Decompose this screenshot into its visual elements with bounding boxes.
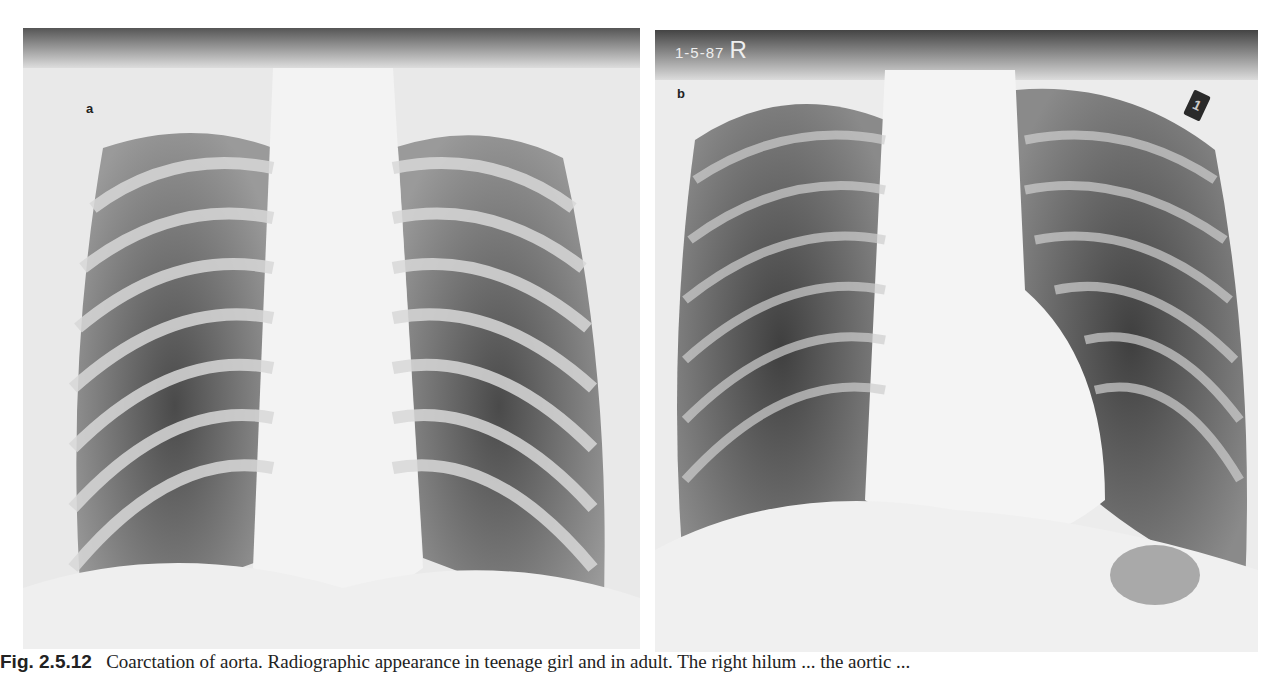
radiograph-panel-a: a: [23, 28, 640, 649]
chest-xray-a-image: [23, 28, 640, 649]
radiograph-panel-b: 1-5-87 R b 1: [655, 30, 1258, 652]
figure-caption: Fig. 2.5.12 Coarctation of aorta. Radiog…: [0, 651, 1273, 673]
marker-glyph: 1: [1190, 96, 1204, 114]
panel-label-b: b: [677, 86, 685, 101]
film-side-marker: R: [730, 36, 748, 63]
figure-number: Fig. 2.5.12: [0, 651, 92, 672]
film-date: 1-5-87: [675, 44, 724, 61]
chest-xray-b-image: [655, 30, 1258, 652]
caption-text: Coarctation of aorta. Radiographic appea…: [106, 651, 910, 672]
panel-label-a: a: [86, 101, 93, 116]
film-date-marking: 1-5-87 R: [675, 36, 748, 64]
